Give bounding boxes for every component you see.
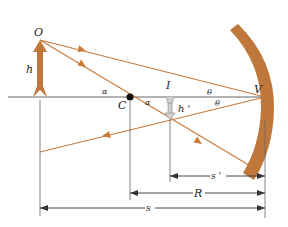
concave-mirror-diagram: O h α C α I h ' θ θ V s ' R s <box>0 0 288 227</box>
dimension-lines <box>40 176 265 208</box>
label-radius: R <box>193 187 202 200</box>
center-of-curvature-point <box>127 94 134 101</box>
rays <box>40 40 265 167</box>
label-alpha-upper: α <box>102 87 108 96</box>
label-image-distance: s ' <box>211 171 221 181</box>
label-center: C <box>118 99 127 112</box>
label-image-height: h ' <box>178 103 190 114</box>
label-object-height: h <box>26 63 33 76</box>
image-arrow <box>165 97 175 120</box>
ray-arrowheads <box>78 45 205 146</box>
concave-mirror <box>230 24 274 180</box>
object-arrow <box>33 40 47 97</box>
label-theta-upper: θ <box>207 88 212 97</box>
label-object-point: O <box>34 26 43 39</box>
label-vertex: V <box>254 83 263 96</box>
extension-lines <box>40 100 265 218</box>
label-image-point: I <box>165 79 171 92</box>
label-object-distance: s <box>146 203 151 213</box>
label-alpha-lower: α <box>145 98 151 107</box>
label-theta-lower: θ <box>215 99 220 108</box>
